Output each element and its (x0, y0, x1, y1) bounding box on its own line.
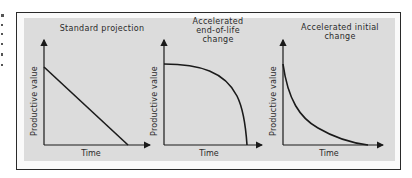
chart-3-axes (283, 40, 383, 145)
chart-1-title: Standard projection (52, 24, 152, 33)
chart-3-title-line: Accelerated initial (292, 23, 388, 32)
chart-1-axes (44, 40, 150, 145)
chart-2-title: Accelerated end-of-life change (170, 17, 266, 44)
chart-3-ylabel: Productive value (269, 66, 278, 136)
chart-2-title-line: change (170, 35, 266, 44)
chart-2-title-line: Accelerated (170, 17, 266, 26)
chart-2-axes (164, 40, 262, 145)
chart-3-title-line: change (292, 32, 388, 41)
chart-3-curve (283, 64, 368, 145)
chart-1-ylabel: Productive value (30, 66, 39, 136)
chart-2-curve (164, 64, 247, 145)
chart-1-xlabel: Time (71, 149, 111, 158)
chart-1-line (44, 67, 128, 145)
chart-2-ylabel: Productive value (150, 66, 159, 136)
chart-2-title-line: end-of-life (170, 26, 266, 35)
chart-3-xlabel: Time (309, 149, 349, 158)
chart-3-title: Accelerated initial change (292, 23, 388, 41)
chart-2-xlabel: Time (189, 149, 229, 158)
